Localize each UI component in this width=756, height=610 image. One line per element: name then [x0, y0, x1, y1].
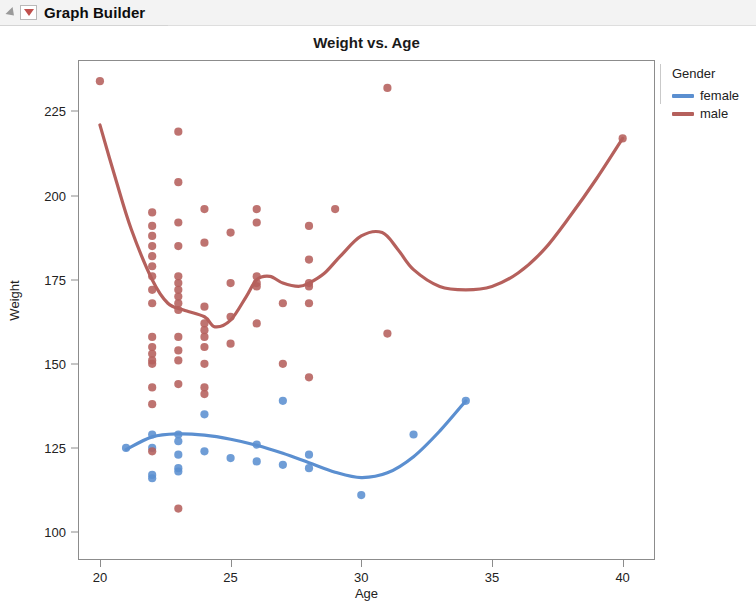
disclosure-triangle-icon[interactable]: [4, 0, 18, 26]
data-point[interactable]: [200, 333, 208, 341]
data-point[interactable]: [200, 343, 208, 351]
legend-label: female: [700, 88, 739, 103]
data-point[interactable]: [174, 356, 182, 364]
data-point[interactable]: [226, 279, 234, 287]
data-point[interactable]: [174, 380, 182, 388]
x-tick-label: 20: [93, 570, 107, 585]
data-point[interactable]: [383, 84, 391, 92]
data-point[interactable]: [279, 397, 287, 405]
data-point[interactable]: [148, 208, 156, 216]
data-point[interactable]: [148, 360, 156, 368]
data-point[interactable]: [174, 504, 182, 512]
data-point[interactable]: [148, 333, 156, 341]
x-tick-label: 35: [485, 570, 499, 585]
legend-title: Gender: [672, 66, 756, 81]
legend-item-male[interactable]: male: [672, 106, 756, 121]
data-point[interactable]: [174, 451, 182, 459]
data-point[interactable]: [200, 390, 208, 398]
data-point[interactable]: [174, 218, 182, 226]
data-point[interactable]: [200, 303, 208, 311]
legend-label: male: [700, 106, 728, 121]
data-point[interactable]: [226, 340, 234, 348]
y-tick-label: 175: [44, 272, 66, 287]
data-point[interactable]: [200, 360, 208, 368]
data-point[interactable]: [96, 77, 104, 85]
x-tick-label: 30: [354, 570, 368, 585]
y-tick-mark: [71, 195, 78, 196]
legend-swatch-icon: [672, 112, 694, 116]
y-tick-label: 125: [44, 440, 66, 455]
data-point[interactable]: [200, 447, 208, 455]
data-point[interactable]: [174, 467, 182, 475]
y-tick-mark: [71, 111, 78, 112]
x-tick-label: 25: [223, 570, 237, 585]
plot-svg: [79, 61, 654, 559]
series-female: [122, 397, 470, 499]
data-point[interactable]: [383, 329, 391, 337]
data-point[interactable]: [305, 451, 313, 459]
data-point[interactable]: [200, 205, 208, 213]
data-point[interactable]: [357, 491, 365, 499]
legend-entries: femalemale: [664, 88, 756, 121]
data-point[interactable]: [148, 299, 156, 307]
series-male: [96, 77, 627, 513]
graph-container: Weight vs. Age 100125150175200225 Weight…: [0, 26, 756, 610]
data-point[interactable]: [253, 319, 261, 327]
y-tick-mark: [71, 447, 78, 448]
data-point[interactable]: [305, 255, 313, 263]
y-tick-label: 100: [44, 525, 66, 540]
data-point[interactable]: [148, 232, 156, 240]
red-triangle-menu-icon[interactable]: [20, 5, 37, 20]
y-axis-title: Weight: [7, 261, 22, 341]
y-tick-label: 225: [44, 104, 66, 119]
data-point[interactable]: [148, 262, 156, 270]
data-point[interactable]: [305, 222, 313, 230]
data-point[interactable]: [200, 410, 208, 418]
y-tick-mark: [71, 279, 78, 280]
data-point[interactable]: [409, 430, 417, 438]
data-point[interactable]: [279, 299, 287, 307]
data-point[interactable]: [331, 205, 339, 213]
data-point[interactable]: [148, 242, 156, 250]
data-point[interactable]: [174, 242, 182, 250]
data-point[interactable]: [174, 437, 182, 445]
data-point[interactable]: [305, 373, 313, 381]
x-tick-label: 40: [615, 570, 629, 585]
legend-divider: [660, 64, 661, 104]
chart-title: Weight vs. Age: [78, 34, 655, 51]
data-point[interactable]: [174, 128, 182, 136]
data-point[interactable]: [148, 383, 156, 391]
legend-item-female[interactable]: female: [672, 88, 756, 103]
data-point[interactable]: [148, 400, 156, 408]
data-point[interactable]: [200, 239, 208, 247]
data-point[interactable]: [148, 222, 156, 230]
data-point[interactable]: [279, 461, 287, 469]
data-point[interactable]: [226, 454, 234, 462]
data-point[interactable]: [279, 360, 287, 368]
x-tick-mark: [623, 560, 624, 567]
data-point[interactable]: [148, 474, 156, 482]
x-axis-title: Age: [78, 586, 655, 601]
data-point[interactable]: [174, 178, 182, 186]
legend-swatch-icon: [672, 94, 694, 98]
data-point[interactable]: [253, 205, 261, 213]
x-tick-mark: [492, 560, 493, 567]
data-point[interactable]: [148, 447, 156, 455]
y-tick-label: 200: [44, 188, 66, 203]
data-point[interactable]: [253, 218, 261, 226]
legend: Gender femalemale: [664, 66, 756, 124]
outline-header-bar: Graph Builder: [0, 0, 756, 26]
plot-area[interactable]: [78, 60, 655, 560]
data-point[interactable]: [253, 457, 261, 465]
data-point[interactable]: [226, 229, 234, 237]
data-point[interactable]: [174, 333, 182, 341]
x-tick-mark: [361, 560, 362, 567]
data-point[interactable]: [148, 252, 156, 260]
data-point[interactable]: [174, 346, 182, 354]
data-point[interactable]: [305, 299, 313, 307]
y-tick-label: 150: [44, 356, 66, 371]
page-title: Graph Builder: [44, 4, 145, 21]
x-tick-mark: [231, 560, 232, 567]
x-tick-mark: [100, 560, 101, 567]
y-tick-mark: [71, 363, 78, 364]
